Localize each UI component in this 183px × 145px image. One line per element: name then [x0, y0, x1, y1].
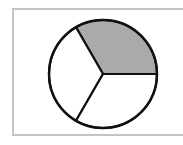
fraction-circle	[0, 0, 183, 145]
